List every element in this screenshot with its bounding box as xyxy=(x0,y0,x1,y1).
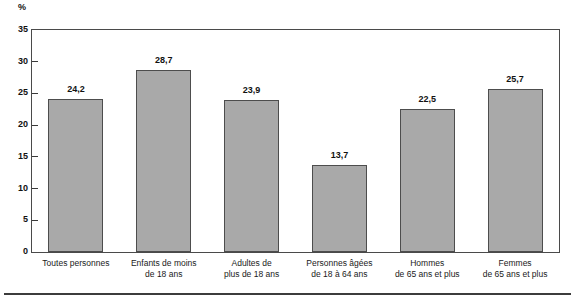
y-axis-tick-label: 15 xyxy=(2,152,28,161)
y-axis-tick-label: 20 xyxy=(2,120,28,129)
category-label-line-2: de 18 à 64 ans xyxy=(291,269,387,280)
x-axis-category-label: Femmesde 65 ans et plus xyxy=(467,258,563,280)
category-label-line-1: Hommes xyxy=(410,258,444,268)
bar xyxy=(224,100,279,252)
y-axis-tick xyxy=(32,188,38,189)
bar xyxy=(136,70,191,252)
category-label-line-2: de 18 ans xyxy=(116,269,212,280)
y-axis-tick-label: 0 xyxy=(2,247,28,256)
y-axis-tick-label: 5 xyxy=(2,215,28,224)
x-axis-category-label: Toutes personnes xyxy=(28,258,124,269)
y-axis-tick-label: 30 xyxy=(2,57,28,66)
y-axis-tick xyxy=(32,93,38,94)
bar xyxy=(48,99,103,252)
y-axis-unit-label: % xyxy=(18,2,26,12)
y-axis-tick-label: 10 xyxy=(2,184,28,193)
bar xyxy=(488,89,543,252)
x-axis-category-label: Hommesde 65 ans et plus xyxy=(379,258,475,280)
chart-figure: % 05101520253035 Toutes personnesEnfants… xyxy=(0,0,575,302)
category-label-line-1: Femmes xyxy=(499,258,532,268)
category-label-line-2: plus de 18 ans xyxy=(204,269,300,280)
bar-value-label: 24,2 xyxy=(46,85,106,94)
bar-value-label: 28,7 xyxy=(134,56,194,65)
y-axis-tick xyxy=(32,61,38,62)
y-axis-tick xyxy=(32,125,38,126)
bar-value-label: 22,5 xyxy=(397,95,457,104)
y-axis-tick-label: 25 xyxy=(2,88,28,97)
y-axis-tick xyxy=(32,220,38,221)
x-axis-category-label: Adultes deplus de 18 ans xyxy=(204,258,300,280)
bar xyxy=(312,165,367,252)
x-axis-category-label: Personnes âgéesde 18 à 64 ans xyxy=(291,258,387,280)
plot-area xyxy=(32,30,559,252)
plot-frame xyxy=(31,29,560,253)
bar-value-label: 25,7 xyxy=(485,75,545,84)
category-label-line-1: Toutes personnes xyxy=(42,258,109,268)
category-label-line-2: de 65 ans et plus xyxy=(467,269,563,280)
bar-value-label: 13,7 xyxy=(309,151,369,160)
category-label-line-2: de 65 ans et plus xyxy=(379,269,475,280)
category-label-line-1: Personnes âgées xyxy=(306,258,372,268)
footer-divider xyxy=(4,293,571,295)
y-axis-tick xyxy=(32,156,38,157)
category-label-line-1: Adultes de xyxy=(231,258,271,268)
y-axis-tick-label: 35 xyxy=(2,25,28,34)
bar-value-label: 23,9 xyxy=(222,86,282,95)
category-label-line-1: Enfants de moins xyxy=(131,258,197,268)
bar xyxy=(400,109,455,252)
x-axis-category-label: Enfants de moinsde 18 ans xyxy=(116,258,212,280)
